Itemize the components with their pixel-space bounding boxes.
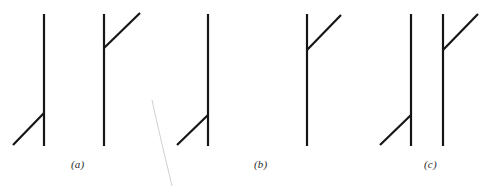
panel-label-c: (c) bbox=[424, 158, 437, 170]
panel-c-group bbox=[380, 14, 478, 146]
panel-a-branch-2 bbox=[104, 13, 140, 48]
panel-c-branch-1 bbox=[380, 115, 411, 145]
panel-a-branch-3 bbox=[177, 115, 208, 145]
panel-b-branch-1 bbox=[307, 15, 341, 50]
panel-label-a: (a) bbox=[71, 158, 84, 170]
panel-a-group bbox=[13, 13, 208, 146]
panel-label-b: (b) bbox=[254, 158, 267, 170]
panel-b-group bbox=[307, 14, 341, 146]
panel-a-branch-1 bbox=[13, 113, 44, 145]
panel-c-branch-2 bbox=[443, 14, 478, 50]
faint-curve-icon bbox=[152, 100, 172, 186]
figure-container: (a) (b) (c) bbox=[0, 0, 488, 186]
